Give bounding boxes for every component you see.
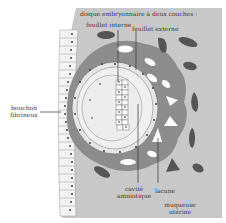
outer-layer-label: feuillet externe — [132, 26, 178, 33]
fibrin-plug-label-line2: fibrineux — [8, 112, 40, 119]
embryonic-disc-label: disque embryonnaire à deux couches : — [80, 11, 197, 18]
amniotic-cavity-area — [82, 75, 142, 141]
inner-layer-label: feuillet interne — [86, 22, 131, 29]
lacuna-label: lacune — [155, 188, 175, 195]
uterine-mucosa-label: muqueuse utérine — [160, 202, 200, 215]
implantation-diagram: disque embryonnaire à deux couches : feu… — [0, 0, 226, 223]
amniotic-cavity-label: cavité amniotique — [114, 186, 154, 199]
amniotic-cavity-label-line2: amniotique — [114, 193, 154, 200]
uterine-mucosa-label-line2: utérine — [160, 209, 200, 216]
fibrin-plug-label: bouchon fibrineux — [8, 105, 40, 118]
embryonic-disc — [116, 80, 129, 130]
